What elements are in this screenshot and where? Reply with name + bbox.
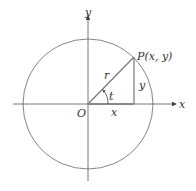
x-axis-label: x [179, 98, 186, 111]
adjacent-label: x [111, 106, 118, 119]
origin-label: O [77, 107, 86, 120]
opposite-label: y [138, 79, 146, 92]
angle-arc [103, 90, 108, 104]
unit-circle-diagram: y x O P(x, y) r t y x [0, 0, 196, 191]
point-label: P(x, y) [136, 50, 172, 63]
radius-label: r [104, 69, 110, 82]
y-axis-label: y [84, 6, 92, 19]
angle-label: t [109, 90, 114, 103]
